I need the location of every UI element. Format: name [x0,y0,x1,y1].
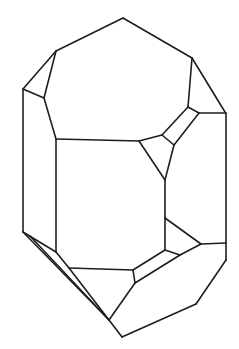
crystal-edge [69,268,133,270]
crystal-edge [165,250,180,255]
crystal-edge [188,107,199,113]
crystal-edge [23,89,44,98]
crystal-figure [0,0,239,349]
crystal-edge [196,260,226,304]
crystal-edge [188,58,192,107]
crystal-edge [30,236,109,320]
crystal-edge [109,320,122,337]
crystal-edge [165,145,174,180]
crystal-edge [135,255,180,283]
crystal-edge [69,268,109,320]
crystal-edge [56,18,123,51]
crystal-edge [180,244,201,255]
crystal-edge [109,283,135,320]
crystal-edge [122,304,196,337]
crystal-edge [133,270,135,283]
crystal-edge [56,139,139,141]
crystal-edge [201,243,226,244]
crystal-edge [162,135,174,145]
crystal-edge [44,98,56,139]
crystal-edge [139,135,162,141]
crystal-edge [123,18,192,58]
crystal-edge [165,218,201,244]
crystal-edge [139,141,165,180]
crystal-edge [192,58,225,112]
crystal-drawing [0,0,239,349]
